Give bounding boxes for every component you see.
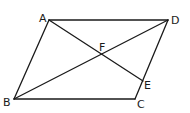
label-D: D (171, 14, 179, 27)
label-B: B (3, 96, 11, 109)
label-F: F (99, 41, 105, 54)
label-A: A (39, 12, 47, 25)
side-DC (135, 20, 168, 99)
segment-AE (49, 20, 143, 81)
label-C: C (137, 98, 145, 111)
parallelogram-diagram: A D B C E F (0, 0, 190, 113)
side-BA (14, 20, 49, 99)
label-E: E (144, 79, 151, 92)
